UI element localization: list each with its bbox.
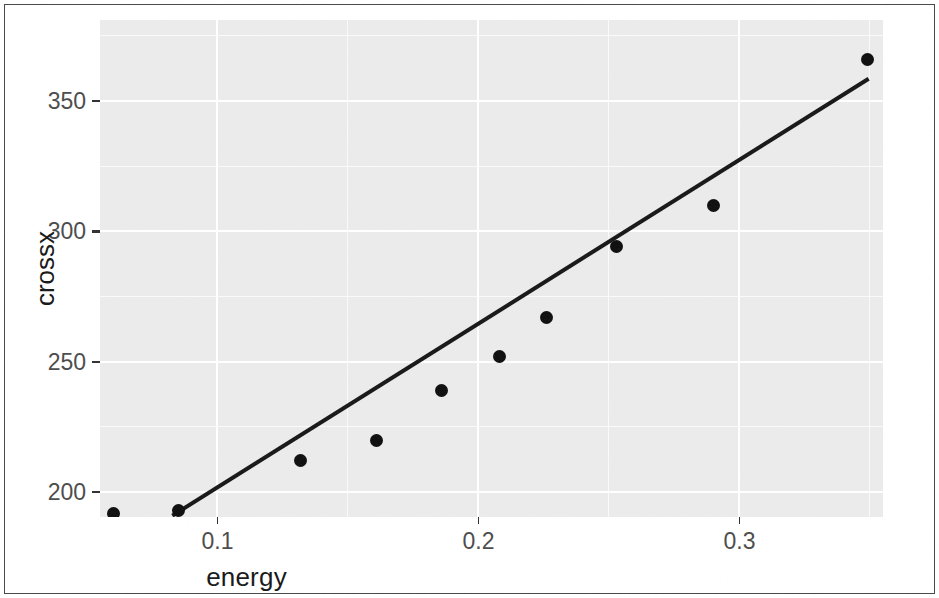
x-axis-tick-label: 0.2: [462, 530, 494, 553]
plot-panel: [100, 20, 883, 517]
y-axis-tick: [92, 491, 100, 494]
x-axis-tick-label: 0.3: [723, 530, 755, 553]
x-axis-tick: [739, 517, 741, 524]
scatter-point: [107, 507, 120, 517]
figure-root: 0.10.20.3 200250300350 energy crossx: [0, 0, 939, 598]
x-axis-tick: [217, 517, 219, 524]
scatter-point: [294, 454, 307, 467]
x-axis-title-text: energy: [206, 562, 287, 593]
scatter-point: [861, 53, 874, 66]
y-axis-tick: [92, 100, 100, 103]
scatter-point: [172, 504, 185, 517]
x-axis-tick: [478, 517, 480, 524]
y-axis-tick: [92, 230, 100, 233]
scatter-point: [540, 311, 553, 324]
scatter-point: [610, 240, 623, 253]
y-axis-title-text: crossx: [30, 231, 60, 306]
x-axis-title: energy: [0, 562, 939, 593]
y-axis-title: crossx: [30, 0, 61, 569]
scatter-point: [435, 384, 448, 397]
scatter-point: [493, 350, 506, 363]
scatter-points-layer: [100, 20, 883, 517]
scatter-point: [707, 199, 720, 212]
y-axis-tick: [92, 361, 100, 364]
x-axis-tick-label: 0.1: [201, 530, 233, 553]
scatter-point: [370, 434, 383, 447]
